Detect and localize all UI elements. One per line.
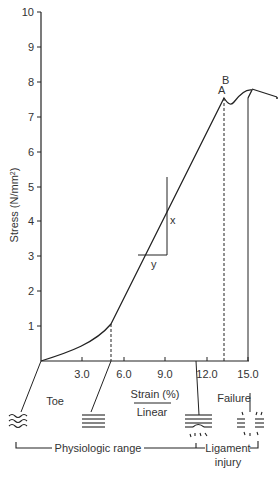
y-tick-label: 6 <box>28 146 34 158</box>
crimped-fibers-icon <box>9 415 27 428</box>
x-tick-label: 12.0 <box>196 368 217 380</box>
y-axis-label: Stress (N/mm2) <box>8 168 20 243</box>
toe-leader-line <box>21 361 41 412</box>
y-tick-labels: 1 2 3 4 5 6 7 8 9 10 <box>22 6 34 332</box>
stress-strain-chart: 1 2 3 4 5 6 7 8 9 10 Stress (N/mm2) 3.0 … <box>0 0 280 477</box>
y-tick-label: 7 <box>28 111 34 123</box>
point-b-label: B <box>222 74 229 86</box>
straight-fibers-icon <box>82 415 105 427</box>
y-tick-label: 8 <box>28 76 34 88</box>
failure-region-label: Failure <box>217 392 251 404</box>
x-tick-label: 9.0 <box>157 368 172 380</box>
linear-leader-line <box>91 361 111 412</box>
ruptured-fibers-icon <box>237 412 264 436</box>
x-tick-label: 3.0 <box>74 368 89 380</box>
y-tick-label: 9 <box>28 41 34 53</box>
slope-triangle <box>138 177 167 255</box>
slope-y-label: y <box>151 258 157 270</box>
x-tick-labels: 3.0 6.0 9.0 12.0 15.0 <box>74 368 258 380</box>
curve-end-segment <box>252 89 277 97</box>
x-tick-label: 15.0 <box>237 368 258 380</box>
physiologic-range-label: Physiologic range <box>55 442 142 454</box>
x-axis-label: Strain (%) <box>131 388 180 400</box>
ligament-label: Ligament <box>205 442 250 454</box>
x-tick-label: 6.0 <box>116 368 131 380</box>
linear-region-label: Linear <box>137 406 168 418</box>
y-tick-label: 2 <box>28 285 34 297</box>
y-tick-label: 3 <box>28 250 34 262</box>
y-tick-label: 1 <box>28 320 34 332</box>
toe-region-label: Toe <box>46 395 64 407</box>
ligament-injury-bracket <box>250 441 258 448</box>
failure-end-point <box>276 97 278 99</box>
y-tick-label: 5 <box>28 181 34 193</box>
y-tick-label: 4 <box>28 215 34 227</box>
injury-label: injury <box>215 456 242 468</box>
stress-strain-curve <box>41 90 252 361</box>
y-tick-label: 10 <box>22 6 34 18</box>
partial-tear-fibers-icon <box>185 415 212 437</box>
slope-x-label: x <box>170 214 176 226</box>
